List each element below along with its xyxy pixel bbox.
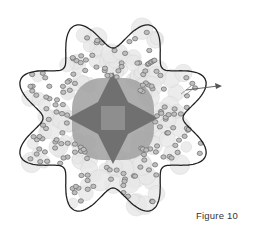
molecular-structure-figure [0, 0, 254, 237]
figure-caption: Figure 10 [196, 210, 238, 221]
